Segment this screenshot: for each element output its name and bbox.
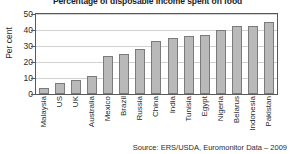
bar: [39, 88, 49, 94]
x-tick-label: Australia: [88, 96, 96, 127]
bar: [135, 49, 145, 94]
y-tick-label: 30: [7, 42, 33, 51]
bar-slot: [68, 14, 84, 94]
x-label-slot: US: [52, 96, 68, 138]
bar: [103, 56, 113, 94]
source-caption: Source: ERS/USDA, Euromonitor Data – 200…: [133, 143, 287, 152]
y-tick-label: 20: [7, 58, 33, 67]
bar: [119, 54, 129, 94]
bar: [71, 80, 81, 94]
bar: [248, 26, 258, 94]
bar: [216, 30, 226, 94]
x-tick-label: Pakistan: [265, 96, 273, 127]
bar-slot: [165, 14, 181, 94]
x-label-slot: India: [165, 96, 181, 138]
x-tick-label: Mexico: [104, 96, 112, 121]
bar-slot: [245, 14, 261, 94]
y-tick-label: 10: [7, 74, 33, 83]
x-label-slot: China: [148, 96, 164, 138]
x-label-slot: Tunisia: [181, 96, 197, 138]
bar-slot: [84, 14, 100, 94]
x-tick-label: Indonesia: [249, 96, 257, 131]
x-label-slot: Mexico: [100, 96, 116, 138]
bar-slot: [132, 14, 148, 94]
bar: [151, 41, 161, 94]
bar: [232, 26, 242, 94]
bar: [200, 35, 210, 94]
bar: [184, 36, 194, 94]
x-axis-category-labels: MalaysiaUSUKAustraliaMexicoBrazilRussiaC…: [36, 96, 277, 138]
x-tick-label: India: [169, 96, 177, 113]
x-label-slot: Brazil: [116, 96, 132, 138]
x-label-slot: Indonesia: [245, 96, 261, 138]
bar: [55, 83, 65, 94]
x-label-slot: Pakistan: [261, 96, 277, 138]
x-label-slot: Nigeria: [213, 96, 229, 138]
y-tick-mark: [31, 94, 35, 95]
bar-slot: [52, 14, 68, 94]
bar-slot: [229, 14, 245, 94]
x-label-slot: Russia: [132, 96, 148, 138]
y-tick-label: 40: [7, 26, 33, 35]
chart-title: Percentage of disposable income spent on…: [0, 0, 295, 6]
bar-slot: [181, 14, 197, 94]
x-tick-label: Malaysia: [40, 96, 48, 128]
x-tick-label: UK: [72, 96, 80, 107]
x-label-slot: Malaysia: [36, 96, 52, 138]
x-tick-label: Brazil: [120, 96, 128, 116]
y-tick-mark: [31, 14, 35, 15]
x-tick-label: US: [56, 96, 64, 107]
bar-slot: [213, 14, 229, 94]
x-tick-label: Nigeria: [217, 96, 225, 121]
x-tick-label: China: [152, 96, 160, 117]
bar-slot: [197, 14, 213, 94]
x-label-slot: Belarus: [229, 96, 245, 138]
bar-slot: [100, 14, 116, 94]
x-tick-label: Russia: [136, 96, 144, 120]
bar-chart-figure: Percentage of disposable income spent on…: [0, 0, 295, 154]
bar: [264, 22, 274, 94]
bar-slot: [261, 14, 277, 94]
y-tick-label: 50: [7, 10, 33, 19]
bar: [168, 38, 178, 94]
y-tick-mark: [31, 78, 35, 79]
bar: [87, 76, 97, 94]
y-tick-label: 0: [7, 90, 33, 99]
x-tick-label: Egypt: [201, 96, 209, 116]
x-label-slot: Australia: [84, 96, 100, 138]
bar-slot: [148, 14, 164, 94]
y-tick-mark: [31, 46, 35, 47]
bar-slot: [36, 14, 52, 94]
x-label-slot: UK: [68, 96, 84, 138]
x-label-slot: Egypt: [197, 96, 213, 138]
x-tick-label: Tunisia: [185, 96, 193, 122]
bar-series: [36, 14, 277, 94]
x-tick-label: Belarus: [233, 96, 241, 123]
bar-slot: [116, 14, 132, 94]
y-tick-mark: [31, 62, 35, 63]
y-tick-mark: [31, 30, 35, 31]
